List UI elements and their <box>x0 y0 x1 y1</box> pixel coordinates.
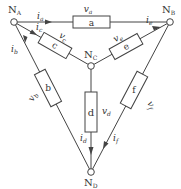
current-d-arrow-icon <box>89 147 94 155</box>
voltage-b-label: vb <box>26 90 40 103</box>
current-e-label: ie <box>146 15 153 26</box>
voltage-a-label: va <box>84 4 93 15</box>
current-b-label: ib <box>11 44 18 55</box>
current-d-label: id <box>80 133 87 144</box>
current-f-label: if <box>113 133 120 145</box>
branch-d: d vd id <box>80 66 111 172</box>
node-c-label: NC <box>84 49 98 61</box>
element-a-label: a <box>89 18 95 28</box>
circuit-diagram: a va ia c vc ic e ve ie b vb i <box>0 0 181 189</box>
element-b-label: b <box>45 83 51 93</box>
current-f-arrow-icon <box>103 141 109 149</box>
voltage-f-label: vf <box>143 99 158 113</box>
node-d <box>88 169 95 176</box>
node-a-label: NA <box>8 4 22 16</box>
node-b-label: NB <box>162 4 176 16</box>
node-a <box>11 19 18 26</box>
node-c <box>88 63 95 70</box>
node-b <box>167 19 174 26</box>
current-a-arrow-icon <box>45 20 52 25</box>
current-c-label: ic <box>36 22 43 33</box>
element-d-label: d <box>88 107 95 118</box>
current-a-label: ia <box>37 11 44 22</box>
node-d-label: ND <box>84 177 98 189</box>
voltage-d-label: vd <box>102 106 111 117</box>
